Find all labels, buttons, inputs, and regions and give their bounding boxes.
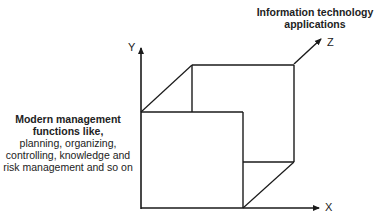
left-label-line-1: Modern management [0, 113, 136, 125]
left-label-line-4: controlling, knowledge and [0, 149, 136, 161]
management-functions-label: Modern management functions like, planni… [0, 113, 136, 173]
z-axis-label: Z [327, 37, 334, 48]
y-axis-label: Y [128, 42, 135, 53]
top-label-line-1: Information technology [252, 6, 378, 18]
left-label-line-2: functions like, [0, 125, 136, 137]
top-label-line-2: applications [252, 18, 378, 30]
left-label-line-3: planning, organizing, [0, 137, 136, 149]
left-label-line-5: risk management and so on [0, 161, 136, 173]
depth-edge-top-left [141, 65, 192, 112]
it-applications-label: Information technology applications [252, 6, 378, 30]
x-axis-label: X [325, 202, 332, 213]
cube-diagram [0, 0, 384, 220]
z-axis [294, 39, 321, 64]
depth-edge-bottom-right [243, 162, 294, 208]
